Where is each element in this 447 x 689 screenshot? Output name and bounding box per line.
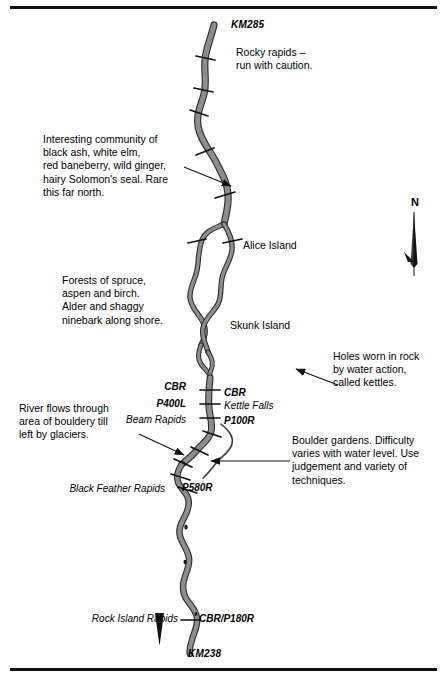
compass-north-label: N: [398, 196, 432, 208]
boulder-till-note: River flows through area of bouldery til…: [19, 402, 109, 442]
compass-rose: N: [398, 196, 432, 278]
vegetation-community-note: Interesting community of black ash, whit…: [43, 133, 168, 199]
forest-note: Forests of spruce, aspen and birch. Alde…: [62, 274, 163, 327]
skunk-island-label: Skunk Island: [230, 319, 290, 331]
portage-cbr-upper-label: CBR: [118, 381, 186, 392]
portage-p580r-label: P580R: [182, 482, 213, 493]
portage-p400l-label: P400L: [110, 398, 186, 409]
portage-p100r-label: P100R: [224, 415, 255, 426]
rocky-rapids-note: Rocky rapids – run with caution.: [236, 46, 312, 72]
portage-cbr-kettle-label: CBR: [224, 387, 246, 398]
river-route-map: N KM285 Rocky rapids – run with caution.…: [0, 0, 447, 689]
beam-rapids-label: Beam Rapids: [110, 414, 186, 425]
portage-cbr-p180r-label: CBR/P180R: [199, 613, 254, 624]
kettle-falls-label: Kettle Falls: [224, 400, 273, 411]
rock-island-rapids-label: Rock Island Rapids: [78, 613, 178, 624]
km-marker-285: KM285: [231, 19, 264, 30]
kettles-note: Holes worn in rock by water action, call…: [333, 350, 419, 390]
river-channel-main: [177, 25, 232, 654]
leader-kettles-note: [296, 369, 338, 385]
river-graphics-layer: [0, 0, 447, 689]
leader-boulder-till-note: [139, 434, 184, 455]
km-marker-238: KM238: [188, 648, 221, 659]
black-feather-rapids-label: Black Feather Rapids: [52, 483, 165, 494]
boulder-gardens-note: Boulder gardens. Difficulty varies with …: [292, 434, 419, 487]
alice-island-label: Alice Island: [243, 239, 297, 251]
